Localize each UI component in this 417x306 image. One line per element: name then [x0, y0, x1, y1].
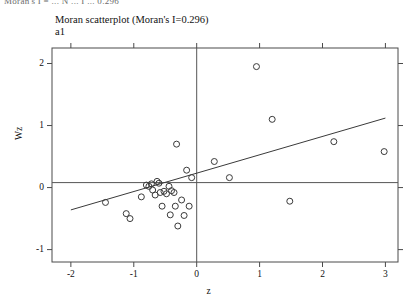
reference-lines [52, 48, 398, 262]
data-point [189, 175, 195, 181]
x-tick-label: 1 [245, 269, 275, 279]
x-tick-label: 0 [182, 269, 212, 279]
x-tick-label: -2 [56, 269, 86, 279]
data-point [159, 203, 165, 209]
data-point [226, 175, 232, 181]
data-point [184, 167, 190, 173]
x-tick-label: -1 [119, 269, 149, 279]
data-point [157, 190, 163, 196]
y-tick-label: 0 [20, 182, 44, 192]
data-point [186, 203, 192, 209]
data-point [127, 216, 133, 222]
x-tick-label: 3 [370, 269, 400, 279]
plot-canvas [0, 0, 417, 306]
regression-line [71, 118, 386, 210]
data-point [175, 223, 181, 229]
data-point [287, 198, 293, 204]
axis-ticks [47, 43, 403, 267]
data-point [331, 139, 337, 145]
data-point [179, 197, 185, 203]
data-point [172, 203, 178, 209]
y-tick-label: 1 [20, 120, 44, 130]
data-point [253, 64, 259, 70]
x-tick-label: 2 [308, 269, 338, 279]
data-point [174, 141, 180, 147]
data-point [181, 212, 187, 218]
data-point [269, 116, 275, 122]
data-point [381, 149, 387, 155]
data-points [102, 64, 387, 229]
y-tick-label: -1 [20, 244, 44, 254]
data-point [167, 212, 173, 218]
plot-frame [52, 48, 398, 262]
moran-scatterplot-figure: Moran's I = ... N ... I ... 0.296 Moran … [0, 0, 417, 306]
data-point [211, 159, 217, 165]
y-tick-label: 2 [20, 58, 44, 68]
data-point [102, 199, 108, 205]
data-point [138, 194, 144, 200]
